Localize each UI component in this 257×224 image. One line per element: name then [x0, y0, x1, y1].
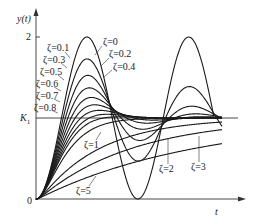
label-zeta-0-7: ζ=0.7	[36, 91, 58, 101]
y-axis-label: y(t)	[17, 14, 31, 24]
label-zeta-0: ζ=0	[103, 37, 118, 47]
x-axis-arrow-icon	[238, 197, 246, 202]
label-zeta-0-5: ζ=0.5	[40, 67, 62, 77]
label-zeta-0-2: ζ=0.2	[109, 49, 131, 59]
label-zeta-5: ζ=5	[76, 186, 91, 196]
label-zeta-0-6: ζ=0.6	[36, 79, 58, 89]
label-zeta-0-4: ζ=0.4	[113, 62, 135, 72]
x-axis-label: t	[215, 207, 218, 217]
axes	[34, 8, 247, 202]
label-zeta-3: ζ=3	[191, 162, 206, 172]
label-zeta-0-1: ζ=0.1	[47, 43, 69, 53]
label-zeta-2: ζ=2	[159, 164, 174, 174]
label-zeta-0-3: ζ=0.3	[43, 55, 65, 65]
k-subscript: 1	[27, 118, 31, 126]
y-tick-k1: K1	[20, 113, 30, 127]
y-axis-arrow-icon	[34, 8, 39, 16]
label-zeta-1: ζ=1	[84, 140, 99, 150]
k-label: K	[20, 112, 27, 123]
label-zeta-0-8: ζ=0.8	[34, 103, 56, 113]
origin-label: 0	[27, 196, 32, 206]
y-tick-2: 2	[26, 32, 31, 42]
